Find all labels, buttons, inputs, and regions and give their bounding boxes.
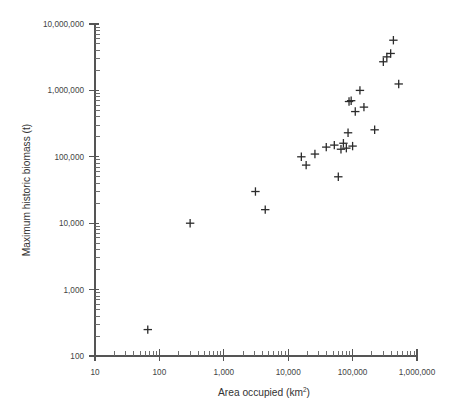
data-point <box>360 103 368 111</box>
x-tick-label: 10 <box>90 368 100 377</box>
data-point <box>348 142 356 150</box>
data-point <box>370 126 378 134</box>
data-point <box>144 325 152 333</box>
x-tick-label: 1,000 <box>214 368 235 377</box>
x-tick-label: 1,000,000 <box>399 368 436 377</box>
data-point <box>251 187 259 195</box>
data-point <box>261 205 269 213</box>
y-tick-label: 1,000,000 <box>48 86 85 95</box>
data-point <box>344 129 352 137</box>
data-point <box>395 80 403 88</box>
x-axis-title: Area occupied (km2) <box>218 386 310 398</box>
y-tick-label: 10,000,000 <box>43 20 84 29</box>
y-tick-label: 1,000 <box>64 286 85 295</box>
x-tick-label: 100,000 <box>338 368 368 377</box>
data-point <box>347 96 355 104</box>
scatter-chart: 101001,00010,000100,0001,000,0001001,000… <box>0 0 450 419</box>
y-tick-label: 100 <box>70 352 84 361</box>
data-points-group <box>144 36 403 334</box>
data-point <box>389 36 397 44</box>
data-point <box>297 153 305 161</box>
data-point <box>330 141 338 149</box>
plot-area: 101001,00010,000100,0001,000,0001001,000… <box>0 0 450 419</box>
data-point <box>302 161 310 169</box>
data-point <box>311 150 319 158</box>
x-tick-label: 100 <box>153 368 167 377</box>
data-point <box>356 86 364 94</box>
y-tick-label: 100,000 <box>54 153 84 162</box>
y-tick-label: 10,000 <box>59 219 84 228</box>
data-point <box>186 219 194 227</box>
data-point <box>322 143 330 151</box>
data-point <box>334 173 342 181</box>
data-point <box>351 107 359 115</box>
data-point <box>345 97 353 105</box>
x-tick-label: 10,000 <box>276 368 301 377</box>
y-axis-title: Maximum historic biomass (t) <box>21 124 32 256</box>
